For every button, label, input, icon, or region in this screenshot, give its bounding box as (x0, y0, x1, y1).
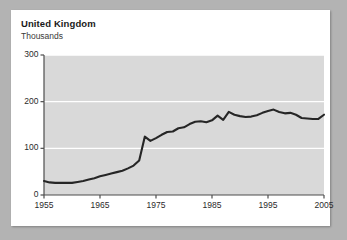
figure-root: United Kingdom Thousands 3002001000 (0, 0, 347, 240)
x-tick-label-1955: 1955 (27, 201, 61, 210)
chart-card: United Kingdom Thousands 3002001000 (11, 10, 330, 226)
x-tick-label-1975: 1975 (139, 201, 173, 210)
x-tick-label-1995: 1995 (251, 201, 285, 210)
x-tick-label-2005: 2005 (307, 201, 341, 210)
y-tick-label-100: 100 (11, 143, 39, 152)
plot-background (44, 55, 324, 195)
y-tick-label-200: 200 (11, 97, 39, 106)
y-tick-label-300: 300 (11, 50, 39, 59)
x-tick-label-1965: 1965 (83, 201, 117, 210)
plot-background-group (44, 55, 324, 195)
x-tick-label-1985: 1985 (195, 201, 229, 210)
y-tick-label-0: 0 (11, 190, 39, 199)
line-chart-svg (11, 10, 330, 226)
plot-area: 3002001000 195519651975198519952005 (11, 10, 330, 226)
